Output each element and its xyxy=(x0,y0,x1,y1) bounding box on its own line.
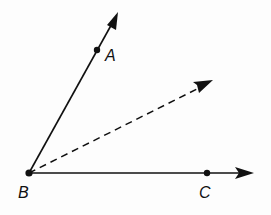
label-c: C xyxy=(199,184,211,201)
diagram-canvas: A B C xyxy=(0,0,271,215)
point-b xyxy=(25,169,32,176)
bisector-arrowhead-icon xyxy=(193,80,213,93)
ray-ba xyxy=(29,20,114,173)
ray-ba-arrowhead-icon xyxy=(107,12,118,30)
point-a xyxy=(94,47,100,53)
angle-diagram: A B C xyxy=(0,0,271,215)
label-b: B xyxy=(18,184,29,201)
bisector-ray xyxy=(29,86,203,173)
point-c xyxy=(204,170,210,176)
label-a: A xyxy=(104,47,116,64)
